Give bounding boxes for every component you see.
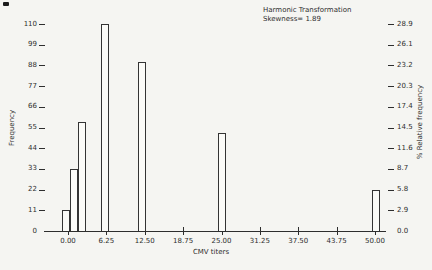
x-axis-tick — [298, 227, 299, 235]
histogram-bar — [138, 62, 146, 231]
y-axis-tick-label: 20.3 — [397, 82, 423, 90]
y-axis-tick — [39, 210, 45, 211]
skewness-annotation: Skewness= 1.89 — [263, 15, 351, 24]
y-axis-tick-label: 88 — [15, 61, 37, 69]
x-axis-tick-label: 37.50 — [281, 237, 315, 245]
y-axis-tick-label: 2.9 — [397, 206, 423, 214]
x-axis-tick — [183, 227, 184, 235]
histogram-figure: Harmonic Transformation Skewness= 1.89 F… — [0, 0, 432, 270]
y-axis-tick — [39, 45, 45, 46]
y-axis-tick — [388, 128, 394, 129]
y-axis-tick — [39, 24, 45, 25]
y-axis-tick — [388, 86, 394, 87]
y-axis-tick-label: 8.7 — [397, 164, 423, 172]
y-axis-tick — [39, 107, 45, 108]
y-axis-tick-label: 77 — [15, 82, 37, 90]
y-axis-tick — [388, 148, 394, 149]
histogram-bar — [62, 210, 70, 231]
x-axis-tick-label: 12.50 — [128, 237, 162, 245]
histogram-bar — [101, 24, 109, 231]
y-axis-tick-label: 44 — [15, 144, 37, 152]
y-axis-tick-label: 66 — [15, 102, 37, 110]
y-axis-tick-label: 55 — [15, 123, 37, 131]
y-axis-tick-label: 11 — [15, 206, 37, 214]
y-axis-tick-label: 5.8 — [397, 185, 423, 193]
histogram-bar — [372, 190, 380, 231]
y-axis-tick — [39, 169, 45, 170]
y-axis-tick — [388, 107, 394, 108]
chart-title: Harmonic Transformation — [263, 6, 351, 15]
y-axis-tick-label: 26.1 — [397, 40, 423, 48]
x-axis-label: CMV titers — [180, 248, 242, 256]
y-axis-tick — [39, 148, 45, 149]
x-axis-tick — [260, 227, 261, 235]
x-axis-tick-label: 0.00 — [51, 237, 85, 245]
y-axis-tick — [39, 65, 45, 66]
y-axis-tick-label: 110 — [15, 20, 37, 28]
y-axis-tick-label: 23.2 — [397, 61, 423, 69]
histogram-bar — [70, 169, 78, 231]
histogram-bar — [218, 133, 226, 231]
histogram-bar — [78, 122, 86, 231]
scan-artifact-mark — [3, 2, 9, 6]
y-axis-tick-label: 17.4 — [397, 102, 423, 110]
y-axis-tick-label: 22 — [15, 185, 37, 193]
x-axis-tick — [337, 227, 338, 235]
y-axis-tick-label: 0 — [15, 227, 37, 235]
x-axis-tick-label: 31.25 — [243, 237, 277, 245]
x-axis-tick-label: 25.00 — [205, 237, 239, 245]
y-axis-tick — [388, 24, 394, 25]
y-axis-tick — [388, 169, 394, 170]
x-axis-tick-label: 6.25 — [89, 237, 123, 245]
x-axis-line — [44, 231, 386, 232]
x-axis-tick-label: 43.75 — [320, 237, 354, 245]
y-axis-tick — [388, 65, 394, 66]
y-axis-tick-label: 11.6 — [397, 144, 423, 152]
y-axis-tick — [39, 128, 45, 129]
y-axis-tick-label: 99 — [15, 40, 37, 48]
y-axis-tick-label: 14.5 — [397, 123, 423, 131]
y-axis-tick — [39, 190, 45, 191]
y-axis-tick — [388, 45, 394, 46]
y-axis-tick-label: 28.9 — [397, 20, 423, 28]
y-axis-tick — [39, 86, 45, 87]
y-axis-tick — [388, 190, 394, 191]
x-axis-tick-label: 50.00 — [358, 237, 392, 245]
y-axis-tick — [388, 210, 394, 211]
y-axis-tick-label: 33 — [15, 164, 37, 172]
x-axis-tick-label: 18.75 — [166, 237, 200, 245]
chart-title-block: Harmonic Transformation Skewness= 1.89 — [263, 6, 351, 24]
y-axis-tick-label: 0.0 — [397, 227, 423, 235]
